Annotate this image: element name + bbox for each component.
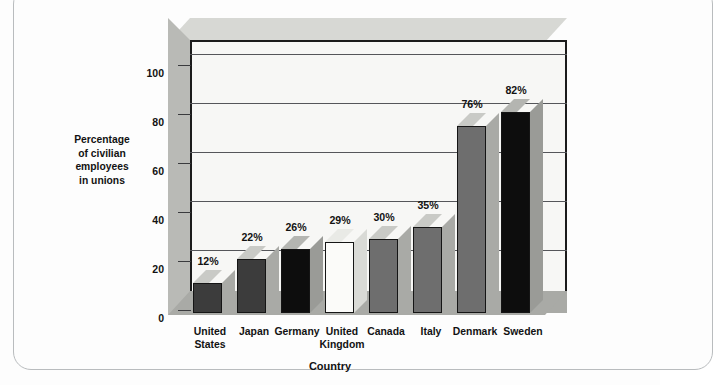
y-tick-100: 100	[136, 68, 164, 79]
x-label-sweden: Sweden	[492, 325, 554, 338]
bar-germany[interactable]: 26%	[281, 249, 310, 313]
x-axis-title: Country	[0, 360, 660, 372]
bar-denmark[interactable]: 76%	[457, 126, 486, 313]
bar-canada[interactable]: 30%	[369, 239, 398, 313]
bar-front-canada	[369, 239, 398, 313]
bar-japan[interactable]: 22%	[237, 259, 266, 313]
y-tick-0: 0	[136, 313, 164, 324]
bar-side-italy	[442, 214, 455, 313]
bar-side-japan	[266, 246, 279, 313]
y-axis-ticks: 100 80 60 40 20 0	[130, 18, 164, 323]
bar-label-united-states: 12%	[191, 255, 225, 267]
bar-top-sweden	[501, 99, 530, 112]
bar-united-states[interactable]: 12%	[193, 283, 222, 313]
bar-label-italy: 35%	[411, 199, 445, 211]
bar-front-italy	[413, 227, 442, 313]
bar-top-united-kingdom	[325, 229, 354, 242]
bar-front-united-states	[193, 283, 222, 313]
bar-front-denmark	[457, 126, 486, 313]
bar-side-denmark	[486, 113, 499, 313]
bar-label-sweden: 82%	[499, 84, 533, 96]
bar-side-united-states	[222, 270, 235, 313]
bar-label-canada: 30%	[367, 211, 401, 223]
bar-label-germany: 26%	[279, 221, 313, 233]
y-tick-80: 80	[136, 117, 164, 128]
bar-sweden[interactable]: 82%	[501, 112, 530, 313]
bar-top-italy	[413, 214, 442, 227]
y-tick-40: 40	[136, 215, 164, 226]
bar-label-united-kingdom: 29%	[323, 214, 357, 226]
bar-series: 12% 22% 26% 29%	[168, 18, 588, 323]
bar-united-kingdom[interactable]: 29%	[325, 242, 354, 313]
bar-top-canada	[369, 226, 398, 239]
y-tick-20: 20	[136, 264, 164, 275]
bar-side-united-kingdom	[354, 229, 367, 313]
bar-label-japan: 22%	[235, 231, 269, 243]
bar-front-japan	[237, 259, 266, 313]
bar-front-united-kingdom	[325, 242, 354, 313]
x-axis-labels: United States Japan Germany United Kingd…	[168, 325, 588, 365]
y-tick-60: 60	[136, 166, 164, 177]
bar-top-japan	[237, 246, 266, 259]
bar-side-sweden	[530, 99, 543, 313]
bar-front-germany	[281, 249, 310, 313]
bar-top-germany	[281, 236, 310, 249]
bar-italy[interactable]: 35%	[413, 227, 442, 313]
bar-top-denmark	[457, 113, 486, 126]
bar-side-germany	[310, 236, 323, 313]
chart-plot-area: 12% 22% 26% 29%	[168, 18, 588, 323]
bar-top-united-states	[193, 270, 222, 283]
bar-front-sweden	[501, 112, 530, 313]
bar-label-denmark: 76%	[455, 98, 489, 110]
bar-side-canada	[398, 226, 411, 313]
